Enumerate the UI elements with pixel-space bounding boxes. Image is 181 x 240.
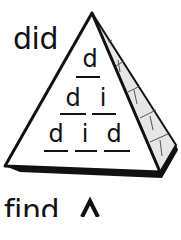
row1-letter1: d [80,47,100,71]
row3-letter3: d [104,122,124,146]
row3-blank2 [75,150,97,152]
row3-letter2: i [75,122,95,146]
row2-blank2 [92,113,116,115]
row3-blank3 [104,150,130,152]
row3-letter1: d [46,122,66,146]
row2-blank1 [60,113,86,115]
row1-blank1 [76,76,100,78]
next-pyramid-apex [82,201,98,217]
row2-letter1: d [63,86,83,110]
next-exercise-word: find [4,196,59,217]
exercise-word: did [13,24,58,54]
row3-blank1 [44,150,68,152]
row2-letter2: i [93,86,113,110]
